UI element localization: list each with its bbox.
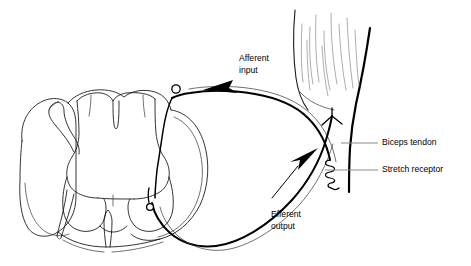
biceps-tendon — [349, 28, 370, 192]
motoneuron-dendrite — [148, 188, 149, 203]
efferent-arrow-tail — [272, 166, 298, 198]
muscle-fiber-5 — [331, 13, 337, 84]
muscle-fiber-3 — [316, 15, 319, 82]
dorsal-median-septum — [113, 101, 119, 129]
reflex-arc-diagram: Afferent input Efferent output Biceps te… — [0, 0, 471, 266]
stretch-receptor-tail — [331, 188, 339, 190]
muscle-fiber-6 — [339, 24, 346, 90]
reflex-arc-figure: Afferent input Efferent output Biceps te… — [0, 0, 471, 266]
afferent-label-line1: Afferent — [239, 53, 270, 63]
dorsal-cord-outline — [68, 90, 171, 110]
gray-matter-dorsal-horn-left — [67, 101, 98, 198]
leader-lines-group — [325, 143, 378, 170]
efferent-arrowhead — [290, 148, 318, 170]
gray-commissure — [98, 198, 134, 199]
ventral-horn-motoneuron — [147, 204, 154, 211]
biceps-muscle-group — [294, 10, 370, 192]
efferent-label-line1: Efferent — [271, 209, 302, 219]
spinal-cord-group — [20, 90, 208, 252]
dorsal-septum-right — [143, 95, 145, 117]
gray-matter-dorsal-horn-right — [134, 99, 169, 199]
muscle-fiber-1 — [301, 24, 303, 82]
ventral-inner-line-right — [112, 242, 163, 252]
ventral-inner-line-left — [63, 240, 104, 252]
stretch-receptor-group — [326, 160, 340, 190]
ventral-rootlet-left-tip — [57, 236, 61, 239]
muscle-fiber-7 — [347, 18, 353, 88]
afferent-pathway-group — [155, 80, 336, 198]
muscle-inner-edge — [300, 92, 334, 110]
afferent-dorsal-root-entry — [155, 98, 172, 198]
muscle-border-left — [294, 10, 308, 110]
motor-endplate-branch — [322, 108, 342, 125]
afferent-label-line2: input — [239, 65, 258, 75]
muscle-fiber-4 — [324, 31, 330, 90]
annotations-group: Afferent input Efferent output Biceps te… — [239, 53, 443, 231]
dorsal-root-ganglion — [172, 85, 180, 93]
dorsal-rootlet-left-outer — [49, 102, 74, 152]
muscle-fiber-2 — [310, 27, 313, 84]
biceps-tendon-label: Biceps tendon — [382, 137, 437, 147]
dorsal-septum-left — [89, 95, 91, 116]
white-matter-left-inner-line — [25, 183, 69, 236]
stretch-receptor-coil — [326, 160, 335, 188]
efferent-label-line2: output — [271, 221, 296, 231]
stretch-receptor-label: Stretch receptor — [382, 164, 443, 174]
muscle-fiber-8 — [355, 30, 359, 86]
